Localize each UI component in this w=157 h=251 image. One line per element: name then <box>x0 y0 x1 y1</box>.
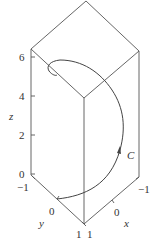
y-tick-0: 0 <box>49 205 55 217</box>
z-tick-4: 4 <box>19 90 25 102</box>
curve-c <box>48 60 123 199</box>
x-axis-label: x <box>123 217 129 229</box>
x-tick-neg1: −1 <box>138 183 150 195</box>
y-tick-neg1: −1 <box>17 181 29 193</box>
y-tick-1: 1 <box>76 228 82 240</box>
x-tick-1: 1 <box>87 228 93 240</box>
curve-label: C <box>127 149 135 161</box>
y-axis-label: y <box>38 217 44 229</box>
z-tick-0: 0 <box>19 168 25 180</box>
z-tick-2: 2 <box>19 129 25 141</box>
bounding-box <box>31 1 139 224</box>
x-tick-0: 0 <box>114 206 120 218</box>
z-axis-label: z <box>8 110 14 122</box>
space-curve-diagram: 6 4 2 0 z −1 0 y 1 1 0 x −1 C <box>0 0 157 251</box>
z-axis-ticks <box>31 57 35 174</box>
z-tick-6: 6 <box>19 51 25 63</box>
